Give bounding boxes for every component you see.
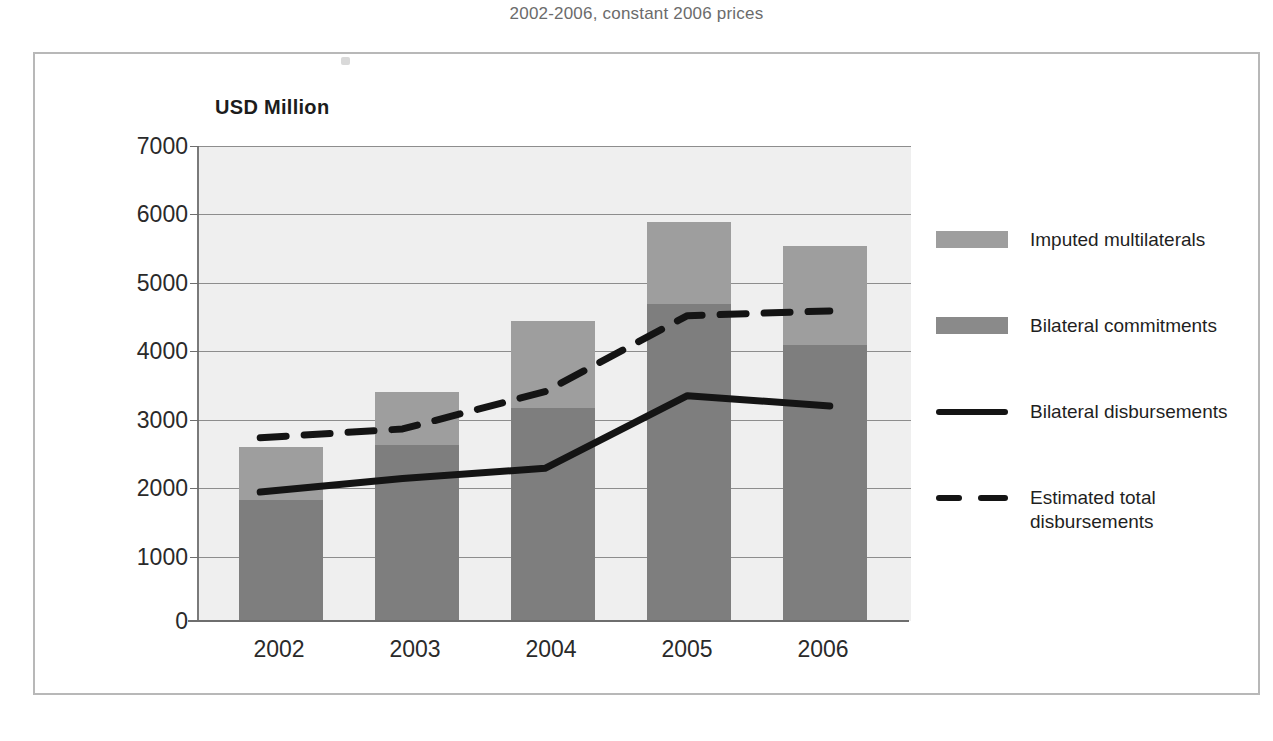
x-tick-label-2005: 2005: [622, 636, 752, 663]
y-tickmark-3000: [190, 420, 199, 421]
gridline-7000: [199, 146, 911, 147]
y-tickmark-4000: [190, 351, 199, 352]
y-tick-label-5000: 5000: [78, 270, 188, 297]
bar-segment-imputed-multilaterals[interactable]: [783, 246, 867, 345]
y-tick-label-6000: 6000: [78, 201, 188, 228]
y-tick-label-1000: 1000: [78, 544, 188, 571]
y-tickmark-2000: [190, 488, 199, 489]
bar-segment-imputed-multilaterals[interactable]: [375, 392, 459, 445]
legend-label-bilateral-commitments: Bilateral commitments: [1030, 314, 1217, 338]
x-tick-label-2003: 2003: [350, 636, 480, 663]
gridline-6000: [199, 214, 911, 215]
legend-swatch-bilateral-commitments: [936, 317, 1008, 334]
x-tick-label-2006: 2006: [758, 636, 888, 663]
legend-label-bilateral-disbursements: Bilateral disbursements: [1030, 400, 1227, 424]
bar-segment-bilateral-commitments[interactable]: [647, 304, 731, 621]
y-tick-label-2000: 2000: [78, 475, 188, 502]
plot-area: [197, 146, 911, 621]
bar-segment-imputed-multilaterals[interactable]: [239, 447, 323, 499]
y-tickmark-5000: [190, 283, 199, 284]
legend-swatch-imputed-multilaterals: [936, 231, 1008, 248]
y-tickmark-7000: [190, 146, 199, 147]
bar-segment-bilateral-commitments[interactable]: [783, 345, 867, 621]
bar-segment-bilateral-commitments[interactable]: [511, 408, 595, 621]
legend-swatch-bilateral-disbursements: [936, 403, 1008, 420]
bar-segment-imputed-multilaterals[interactable]: [511, 321, 595, 407]
y-tickmark-1000: [190, 557, 199, 558]
y-tickmark-6000: [190, 214, 199, 215]
legend-label-estimated-total-disbursements: Estimated total disbursements: [1030, 486, 1156, 535]
scan-artifact: [341, 57, 350, 65]
x-tick-label-2002: 2002: [214, 636, 344, 663]
y-tick-label-3000: 3000: [78, 407, 188, 434]
bar-segment-imputed-multilaterals[interactable]: [647, 222, 731, 304]
y-tick-label-4000: 4000: [78, 338, 188, 365]
legend-item-estimated-total-disbursements[interactable]: Estimated total disbursements: [936, 486, 1246, 535]
y-axis-unit-label: USD Million: [215, 96, 329, 119]
x-tick-label-2004: 2004: [486, 636, 616, 663]
legend-item-bilateral-commitments[interactable]: Bilateral commitments: [936, 314, 1246, 338]
x-axis-line: [188, 620, 909, 622]
legend-item-bilateral-disbursements[interactable]: Bilateral disbursements: [936, 400, 1246, 424]
chart-title: 2002-2006, constant 2006 prices: [0, 4, 1273, 24]
legend-item-imputed-multilaterals[interactable]: Imputed multilaterals: [936, 228, 1246, 252]
y-tick-label-0: 0: [78, 608, 188, 635]
y-tick-label-7000: 7000: [78, 133, 188, 160]
bar-segment-bilateral-commitments[interactable]: [239, 500, 323, 621]
legend-label-imputed-multilaterals: Imputed multilaterals: [1030, 228, 1205, 252]
bar-segment-bilateral-commitments[interactable]: [375, 445, 459, 621]
page-left-edge: [0, 0, 5, 741]
legend-swatch-estimated-total-disbursements: [936, 489, 1008, 506]
